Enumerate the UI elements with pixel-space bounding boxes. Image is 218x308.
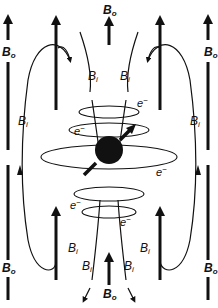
electron-label: e−	[70, 198, 81, 211]
bi-label: Bi	[140, 241, 150, 256]
bo-label: Bo	[103, 3, 117, 18]
bo-arrow-left-inner	[51, 15, 61, 280]
magnetic-shielding-diagram: Bo Bo Bo Bo Bo Bo Bi Bi Bi Bi Bi Bi Bi B…	[0, 0, 218, 308]
bi-label: Bi	[18, 114, 28, 129]
nucleus	[84, 124, 136, 175]
bi-label: Bi	[68, 241, 78, 256]
bo-label: Bo	[2, 261, 16, 276]
bo-arrow-right-inner	[155, 15, 165, 280]
electron-label: e−	[156, 165, 167, 178]
bo-label: Bo	[103, 287, 117, 302]
bi-label: Bi	[190, 114, 200, 129]
bo-label: Bo	[2, 45, 16, 60]
bo-label: Bo	[204, 261, 218, 276]
electron-label: e−	[120, 215, 131, 228]
diagram-canvas: Bo Bo Bo Bo Bo Bo Bi Bi Bi Bi Bi Bi Bi B…	[0, 0, 218, 308]
bi-label: Bi	[82, 259, 92, 274]
bo-label: Bo	[204, 45, 218, 60]
bi-label: Bi	[124, 259, 134, 274]
electron-label: e−	[137, 96, 148, 109]
bi-label: Bi	[88, 69, 98, 84]
bi-labels: Bi Bi Bi Bi Bi Bi Bi Bi	[18, 69, 200, 274]
